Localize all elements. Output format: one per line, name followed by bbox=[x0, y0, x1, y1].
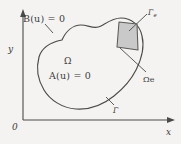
element-domain-label: Ωe bbox=[143, 76, 154, 84]
governing-equation-label: A(u) = 0 bbox=[49, 71, 91, 81]
element-boundary-subscript: e bbox=[154, 12, 157, 18]
leader-line-element-boundary bbox=[129, 14, 147, 31]
domain-label: Ω bbox=[64, 57, 71, 66]
leader-line-boundary-condition bbox=[45, 24, 53, 33]
y-axis-label: y bbox=[8, 45, 13, 54]
x-axis bbox=[23, 117, 175, 123]
domain-boundary-diagram: B(u) = 0 A(u) = 0 Ω Γe Ωe Γ x y 0 bbox=[0, 0, 181, 144]
y-axis bbox=[20, 9, 26, 120]
boundary-condition-label: B(u) = 0 bbox=[23, 14, 65, 24]
element-boundary-base: Γ bbox=[148, 8, 153, 17]
x-axis-label: x bbox=[166, 128, 171, 137]
boundary-label: Γ bbox=[113, 107, 118, 115]
origin-label: 0 bbox=[12, 123, 18, 132]
finite-element-patch bbox=[117, 22, 138, 50]
element-boundary-label: Γe bbox=[148, 9, 156, 17]
